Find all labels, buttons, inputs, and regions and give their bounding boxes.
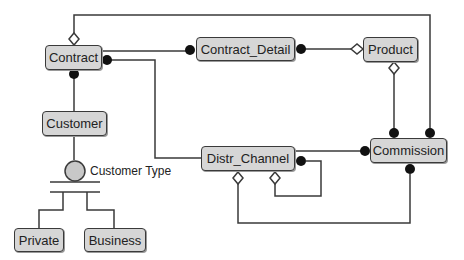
dot-commission-top-left	[389, 128, 399, 138]
dot-commission-left	[360, 146, 370, 156]
specialization-branch-private	[39, 192, 63, 228]
specialization-branch-business	[87, 192, 114, 228]
specialization-circle	[65, 161, 85, 181]
dot-contract-right	[102, 55, 112, 65]
entity-customer[interactable]: Customer	[42, 111, 107, 136]
diamond-product-left	[351, 44, 363, 54]
diamond-product-bottom	[389, 62, 399, 74]
entity-distr-channel[interactable]: Distr_Channel	[201, 146, 295, 171]
diamond-distrchannel-bottom-right	[270, 172, 280, 184]
dot-commission-top-right	[425, 128, 435, 138]
dot-contract-bottom	[69, 69, 79, 79]
entity-label: Business	[89, 233, 142, 248]
entity-product[interactable]: Product	[363, 37, 418, 62]
specialization-label: Customer Type	[90, 164, 171, 178]
diamond-distrchannel-bottom-left	[233, 172, 243, 184]
entity-label: Distr_Channel	[207, 151, 289, 166]
entity-label: Private	[19, 233, 59, 248]
dot-contractdetail-left	[185, 45, 195, 55]
dot-commission-bottom	[405, 164, 415, 174]
entity-label: Commission	[373, 143, 445, 158]
entity-business[interactable]: Business	[84, 228, 146, 252]
dot-distrchannel-right	[296, 156, 306, 166]
entity-private[interactable]: Private	[14, 228, 64, 252]
entity-label: Contract	[49, 50, 98, 65]
entity-contract[interactable]: Contract	[45, 45, 102, 70]
relationship-contract-commission	[74, 15, 430, 133]
diamond-contract-top	[69, 33, 79, 45]
entity-commission[interactable]: Commission	[370, 138, 447, 163]
entity-contract-detail[interactable]: Contract_Detail	[196, 37, 295, 61]
relationship-distrchannel-commission-bottom	[238, 174, 410, 223]
dot-contractdetail-right	[296, 44, 306, 54]
entity-label: Contract_Detail	[201, 42, 291, 57]
relationship-contract-distrchannel	[107, 60, 201, 158]
entity-label: Product	[368, 42, 413, 57]
entity-label: Customer	[46, 116, 102, 131]
